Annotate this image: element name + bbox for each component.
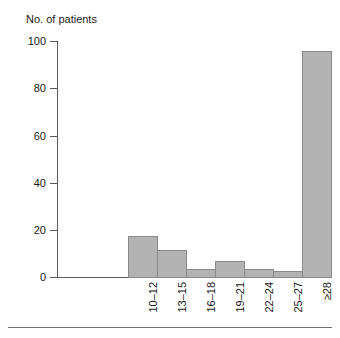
y-axis-tick-label-100: 100: [6, 36, 46, 47]
bar-16–18: [186, 269, 216, 278]
x-axis-label-25–27: 25–27: [293, 282, 304, 313]
y-axis-tick-label-80: 80: [6, 83, 46, 94]
y-axis-tick-20: [50, 230, 57, 231]
bars-layer: [57, 41, 329, 278]
bar-10–12: [128, 236, 158, 278]
y-axis-tick-label-40: 40: [6, 178, 46, 189]
bar-25–27: [273, 271, 303, 278]
x-axis-label-22–24: 22–24: [264, 282, 275, 313]
y-axis-tick-0: [50, 277, 57, 278]
bar-13–15: [157, 250, 187, 278]
y-axis-tick-80: [50, 88, 57, 89]
x-axis-label-10–12: 10–12: [148, 282, 159, 313]
y-axis-tick-60: [50, 136, 57, 137]
bar-19–21: [215, 261, 245, 278]
y-axis-tick-label-0: 0: [6, 272, 46, 283]
figure-container: No. of patients 100 80 60 40 20 0 10–121…: [0, 0, 340, 338]
x-axis-label-≥28: ≥28: [322, 282, 333, 300]
y-axis-tick-label-60: 60: [6, 131, 46, 142]
x-axis-label-16–18: 16–18: [206, 282, 217, 313]
x-axis-label-19–21: 19–21: [235, 282, 246, 313]
y-axis-tick-40: [50, 183, 57, 184]
bottom-divider: [8, 327, 332, 328]
y-axis-title: No. of patients: [26, 13, 97, 26]
bar-22–24: [244, 269, 274, 278]
x-axis-label-13–15: 13–15: [177, 282, 188, 313]
y-axis-tick-100: [50, 41, 57, 42]
bar-≥28: [302, 51, 332, 278]
y-axis-tick-label-20: 20: [6, 225, 46, 236]
